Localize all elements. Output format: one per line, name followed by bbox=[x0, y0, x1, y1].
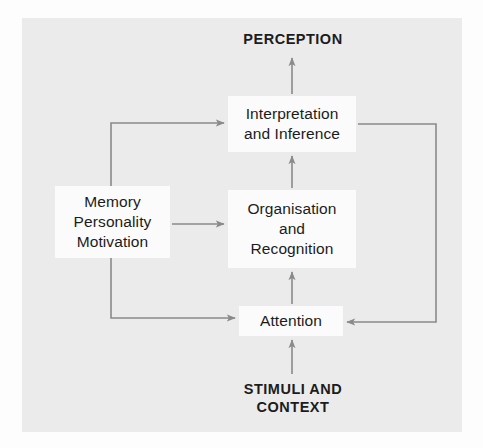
node-attention[interactable]: Attention bbox=[239, 306, 343, 336]
node-memory-line-0: Memory bbox=[59, 192, 166, 212]
node-memory-line-2: Motivation bbox=[59, 232, 166, 252]
connector-interpretation-to-attention-feedback bbox=[347, 124, 436, 322]
connector-memory-to-interpretation bbox=[111, 123, 224, 186]
label-perception-line-0: PERCEPTION bbox=[222, 30, 364, 48]
node-memory-personality-motivation[interactable]: Memory Personality Motivation bbox=[55, 186, 170, 258]
label-perception: PERCEPTION bbox=[222, 30, 364, 48]
connector-memory-to-attention bbox=[111, 258, 235, 318]
label-stimuli-line-0: STIMULI AND bbox=[212, 380, 374, 398]
node-interpretation-and-inference[interactable]: Interpretation and Inference bbox=[228, 96, 356, 152]
label-stimuli-line-1: CONTEXT bbox=[212, 398, 374, 416]
node-organisation-line-1: and bbox=[232, 219, 352, 239]
label-stimuli-and-context: STIMULI AND CONTEXT bbox=[212, 380, 374, 417]
node-organisation-and-recognition[interactable]: Organisation and Recognition bbox=[228, 190, 356, 268]
node-interpretation-line-0: Interpretation bbox=[232, 104, 352, 124]
node-organisation-line-0: Organisation bbox=[232, 199, 352, 219]
node-attention-line-0: Attention bbox=[243, 311, 339, 331]
node-interpretation-line-1: and Inference bbox=[232, 124, 352, 144]
node-organisation-line-2: Recognition bbox=[232, 239, 352, 259]
node-memory-line-1: Personality bbox=[59, 212, 166, 232]
figure-canvas: PERCEPTION Interpretation and Inference … bbox=[0, 0, 483, 448]
